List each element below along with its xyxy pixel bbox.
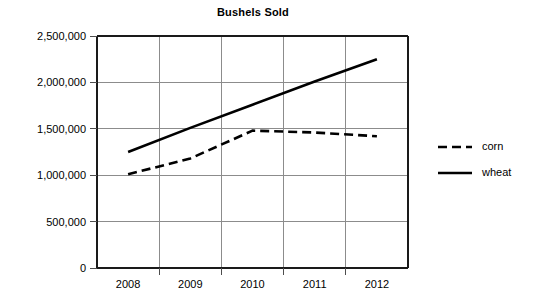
y-tick-label: 2,500,000	[37, 30, 86, 42]
horizontal-gridlines	[97, 82, 408, 221]
y-tick-marks	[90, 36, 97, 268]
x-tick-labels: 20082009201020112012	[116, 278, 389, 290]
x-tick-label: 2008	[116, 278, 140, 290]
plot-axes	[97, 36, 408, 268]
y-tick-labels: 0500,0001,000,0001,500,0002,000,0002,500…	[37, 30, 86, 274]
y-tick-label: 2,000,000	[37, 76, 86, 88]
x-tick-label: 2009	[178, 278, 202, 290]
y-tick-label: 500,000	[46, 216, 86, 228]
series-line-wheat	[128, 59, 377, 152]
y-tick-label: 0	[80, 262, 86, 274]
x-tick-label: 2010	[240, 278, 264, 290]
data-series	[128, 59, 377, 174]
x-tick-label: 2011	[303, 278, 327, 290]
x-tick-label: 2012	[365, 278, 389, 290]
chart-page: Bushels Sold 0500,0001,000,0001,500,0002…	[0, 0, 536, 308]
legend-label-corn: corn	[482, 140, 503, 152]
y-tick-label: 1,000,000	[37, 169, 86, 181]
vertical-gridlines	[159, 36, 346, 268]
legend-label-wheat: wheat	[481, 166, 511, 178]
y-tick-label: 1,500,000	[37, 123, 86, 135]
line-chart: 0500,0001,000,0001,500,0002,000,0002,500…	[0, 0, 536, 308]
x-tick-marks	[159, 268, 346, 275]
chart-legend: cornwheat	[438, 140, 511, 178]
